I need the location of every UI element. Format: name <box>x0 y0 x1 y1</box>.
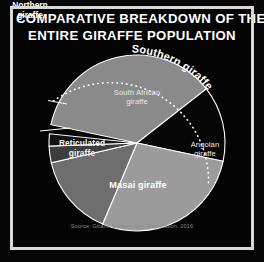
page-title: COMPARATIVE BREAKDOWN OF THE ENTIRE GIRA… <box>16 11 248 44</box>
source-citation: Source: Giraffe Conservation Foundation,… <box>16 223 248 229</box>
page-title-line-2: ENTIRE GIRAFFE POPULATION <box>16 28 248 45</box>
northern-giraffe-leader-line-lower <box>40 128 70 131</box>
page-title-line-1: COMPARATIVE BREAKDOWN OF THE <box>16 11 248 28</box>
infographic-canvas: COMPARATIVE BREAKDOWN OF THE ENTIRE GIRA… <box>0 0 264 262</box>
